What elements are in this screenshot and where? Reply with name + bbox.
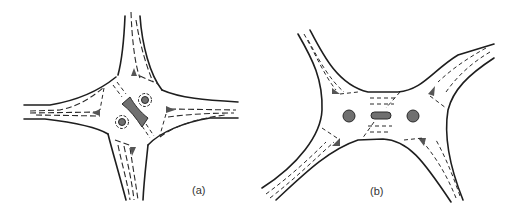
arrow-marker (332, 138, 340, 146)
lane-marking (100, 88, 104, 110)
lane-marking (270, 142, 334, 198)
central-island (371, 112, 391, 119)
roundabout-island-left (343, 110, 355, 122)
lane-marking (430, 96, 446, 108)
road-edge (447, 58, 494, 200)
lane-marking (266, 142, 326, 194)
lane-marking (131, 12, 140, 78)
junction-diagram-b (258, 0, 516, 217)
hatch-marking (386, 92, 400, 108)
lane-marking (322, 128, 340, 140)
arrow-marker (332, 88, 340, 94)
road-edge (24, 77, 116, 105)
arrow-marker (166, 106, 175, 113)
lane-marking (170, 109, 236, 110)
lane-marking (30, 87, 104, 111)
road-edge (262, 34, 322, 188)
mini-roundabout-island (142, 97, 149, 104)
hatch-marking (142, 126, 150, 138)
junction-diagram-a (0, 0, 258, 217)
road-edge (24, 119, 108, 134)
hatch-marking (113, 85, 122, 97)
figure-b: (b) (258, 0, 516, 217)
figure-label-b: (b) (370, 185, 383, 197)
lane-marking (130, 148, 138, 200)
figure-a: (a) (0, 0, 258, 217)
lane-marking (36, 115, 100, 116)
road-edge (143, 145, 148, 200)
hatch-marking (362, 122, 374, 139)
figure-label-a: (a) (192, 184, 205, 196)
lane-marking (308, 40, 344, 92)
arrow-marker (428, 86, 435, 96)
lane-marking (340, 92, 358, 94)
mini-roundabout-island (119, 119, 126, 126)
arrow-marker (418, 138, 426, 146)
road-edge (118, 16, 125, 75)
roundabout-island-right (407, 110, 419, 122)
arrow-marker (92, 109, 100, 116)
lane-marking (30, 112, 100, 113)
road-edge (310, 30, 494, 92)
arrow-marker (131, 68, 137, 76)
road-edge (148, 118, 238, 145)
road-edge (162, 90, 238, 102)
road-edge (140, 16, 162, 90)
